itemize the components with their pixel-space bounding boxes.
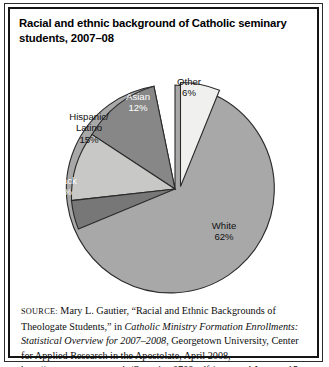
pie-label-hispanic-line1: Hispanic/: [58, 111, 120, 122]
pie-label-black-value: 5%: [44, 186, 86, 197]
pie-label-white: White 62%: [201, 220, 247, 243]
figure-frame-outer: Racial and ethnic background of Catholic…: [4, 3, 323, 362]
pie-label-hispanic-latino: Hispanic/ Latino 15%: [58, 111, 120, 145]
pie-label-asian-value: 12%: [116, 102, 160, 113]
source-note: SOURCE: Mary L. Gautier, “Racial and Eth…: [21, 304, 310, 367]
pie-label-asian-name: Asian: [116, 91, 160, 102]
pie-label-white-value: 62%: [201, 231, 247, 242]
pie-label-white-name: White: [201, 220, 247, 231]
pie-label-black-name: Black: [44, 175, 86, 186]
pie-label-hispanic-line2: Latino: [58, 122, 120, 133]
pie-chart: Other 6% Asian 12% Hispanic/ Latino 15% …: [10, 49, 317, 304]
figure-title: Racial and ethnic background of Catholic…: [19, 16, 309, 45]
pie-label-asian: Asian 12%: [116, 91, 160, 114]
figure-frame-inner: Racial and ethnic background of Catholic…: [8, 7, 319, 358]
pie-label-hispanic-value: 15%: [58, 134, 120, 145]
pie-label-other-value: 6%: [165, 87, 213, 98]
pie-label-black: Black 5%: [44, 175, 86, 198]
pie-label-other: Other 6%: [165, 76, 213, 99]
source-label: SOURCE:: [21, 307, 58, 316]
pie-label-other-name: Other: [165, 76, 213, 87]
